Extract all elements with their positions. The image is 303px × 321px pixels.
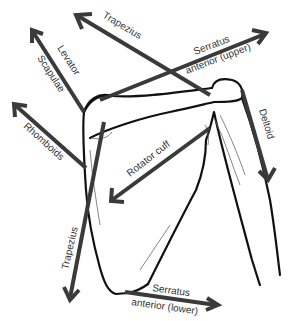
label-rhomboids: Rhomboids (22, 120, 67, 162)
diagram-canvas: Trapezius Levator Scapulae Rhomboids Ser… (0, 0, 303, 321)
scapula-diagram: Trapezius Levator Scapulae Rhomboids Ser… (0, 0, 303, 321)
arrow-rhomboids (14, 104, 86, 168)
label-trapezius-upper: Trapezius (101, 9, 144, 41)
label-deltoid: Deltoid (257, 107, 277, 140)
scapula-outline (83, 79, 280, 294)
